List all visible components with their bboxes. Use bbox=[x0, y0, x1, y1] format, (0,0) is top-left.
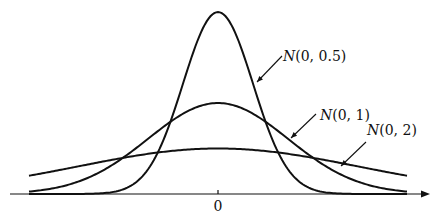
curves-group bbox=[29, 12, 407, 194]
curve-n-0-2- bbox=[29, 149, 407, 176]
labels-group: N(0, 0.5)N(0, 1)N(0, 2) bbox=[257, 48, 417, 166]
curve-label: N(0, 0.5) bbox=[282, 48, 346, 64]
curve-label: N(0, 2) bbox=[366, 122, 417, 138]
figure-canvas: 0 N(0, 0.5)N(0, 1)N(0, 2) bbox=[0, 0, 435, 221]
curve-label: N(0, 1) bbox=[319, 107, 370, 123]
origin-label: 0 bbox=[214, 198, 223, 214]
axis-arrow-icon bbox=[421, 191, 430, 198]
normal-curves-figure: 0 N(0, 0.5)N(0, 1)N(0, 2) bbox=[0, 0, 435, 221]
